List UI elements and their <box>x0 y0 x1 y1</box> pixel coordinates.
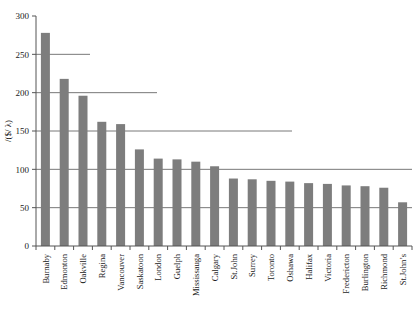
x-category-label: Edmonton <box>59 253 69 290</box>
grid-lines <box>36 54 412 207</box>
x-category-label: Toronto <box>266 254 276 281</box>
x-category-label: Burnaby <box>41 253 51 283</box>
y-tick-labels: 050100150200250300 <box>16 11 37 251</box>
bar <box>97 122 106 246</box>
x-category-label: Mississauga <box>191 254 201 296</box>
bar <box>285 182 294 246</box>
bar-chart: 050100150200250300 BurnabyEdmontonOakvil… <box>0 0 418 322</box>
x-category-label: Surrey <box>247 253 257 277</box>
bar <box>323 184 332 246</box>
bars-group <box>41 33 407 246</box>
x-category-label: Vancouver <box>116 254 126 291</box>
y-tick-label: 0 <box>25 241 30 251</box>
y-tick-label: 300 <box>16 11 30 21</box>
chart-canvas: 050100150200250300 BurnabyEdmontonOakvil… <box>0 0 418 322</box>
bar <box>210 166 219 246</box>
x-category-label: Halifax <box>304 253 314 279</box>
y-tick-label: 50 <box>20 203 30 213</box>
bar <box>116 124 125 246</box>
x-category-labels: BurnabyEdmontonOakvilleReginaVancouverSa… <box>41 253 408 296</box>
y-tick-label: 150 <box>16 126 30 136</box>
y-tick-label: 250 <box>16 50 30 60</box>
x-category-label: Regina <box>97 254 107 279</box>
y-tick-label: 200 <box>16 88 30 98</box>
x-axis <box>36 246 412 250</box>
y-axis-title-text: /($/ λ) <box>3 120 13 142</box>
x-category-label: Guelph <box>172 253 182 279</box>
bar <box>60 79 69 246</box>
bar <box>304 183 313 246</box>
bar <box>248 179 257 246</box>
bar <box>361 186 370 246</box>
x-category-label: Oshawa <box>285 254 295 282</box>
y-axis-title: /($/ λ) <box>3 120 13 142</box>
x-category-label: Saskatoon <box>135 253 145 289</box>
bar <box>154 159 163 246</box>
x-category-label: Richmond <box>379 253 389 290</box>
x-category-label: Fredericton <box>341 253 351 293</box>
x-category-label: Calgary <box>210 253 220 281</box>
x-category-label: St.John’s <box>398 253 408 285</box>
bar <box>79 96 88 246</box>
bar <box>41 33 50 246</box>
bar <box>342 185 351 246</box>
x-category-label: Burlington <box>360 253 370 291</box>
bar <box>398 202 407 246</box>
x-category-label: Oakville <box>78 254 88 284</box>
bar <box>379 188 388 246</box>
x-category-label: Victoria <box>323 254 333 282</box>
bar <box>135 149 144 246</box>
x-category-label: London <box>153 253 163 280</box>
bar <box>267 181 276 246</box>
y-tick-label: 100 <box>16 165 30 175</box>
bar <box>229 179 238 246</box>
x-category-label: St.John <box>229 253 239 279</box>
bar <box>173 159 182 246</box>
bar <box>191 162 200 246</box>
